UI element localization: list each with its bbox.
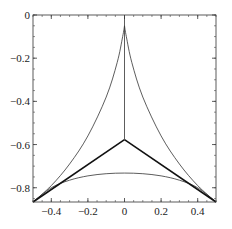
x-axis-ticks: −0.4−0.200.20.4: [41, 15, 205, 217]
y-axis-ticks: 0−0.2−0.4−0.6−0.8: [10, 9, 216, 194]
y-tick-label: −0.4: [10, 95, 30, 107]
x-tick-label: 0: [122, 205, 128, 217]
series-bottom-arc: [33, 173, 216, 202]
y-tick-label: 0: [25, 9, 31, 21]
x-tick-label: 0.2: [154, 205, 168, 217]
series-right-concave-arc: [125, 26, 217, 202]
chart: −0.4−0.200.20.4 0−0.2−0.4−0.6−0.8: [0, 0, 232, 229]
y-tick-label: −0.2: [10, 52, 30, 64]
x-tick-label: 0.4: [191, 205, 205, 217]
x-tick-label: −0.2: [78, 205, 98, 217]
series-right-spoke: [125, 140, 217, 202]
y-tick-label: −0.8: [10, 182, 30, 194]
x-tick-label: −0.4: [41, 205, 61, 217]
y-tick-label: −0.6: [10, 139, 30, 151]
plot-curves: [33, 15, 216, 202]
series-left-spoke: [33, 140, 125, 202]
series-left-concave-arc: [33, 26, 125, 202]
